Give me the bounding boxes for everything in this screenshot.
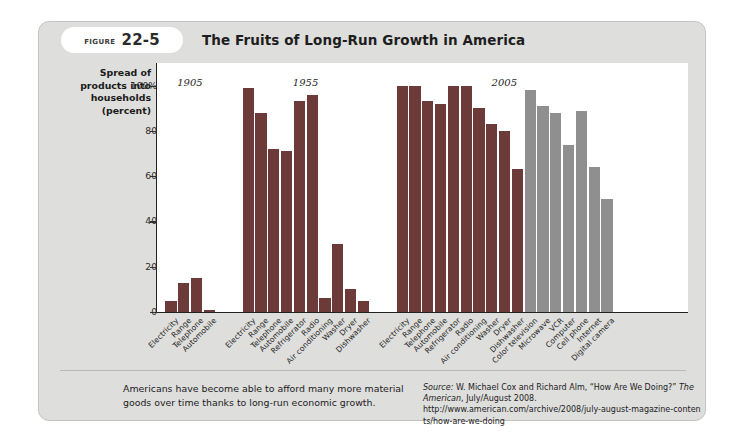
- source-url: http://www.american.com/archive/2008/jul…: [423, 405, 701, 425]
- figure-header: FIGURE 22-5 The Fruits of Long-Run Growt…: [39, 22, 705, 60]
- bar: [255, 113, 266, 312]
- bar: [435, 104, 446, 312]
- figure-badge-word: FIGURE: [84, 35, 115, 46]
- bar: [165, 301, 176, 312]
- bar: [589, 167, 600, 312]
- bar: [473, 108, 484, 312]
- bar: [307, 95, 318, 312]
- bar: [576, 111, 587, 312]
- y-axis-title: Spread of products into households (perc…: [65, 67, 151, 117]
- bar: [358, 301, 369, 312]
- bar: [550, 113, 561, 312]
- y-axis-title-line4: (percent): [65, 105, 151, 118]
- y-axis-title-line1: Spread of: [65, 67, 151, 80]
- figure-title: The Fruits of Long-Run Growth in America: [202, 32, 525, 48]
- bar: [563, 145, 574, 313]
- bar: [397, 86, 408, 312]
- source-date: , July/August 2008.: [461, 394, 537, 403]
- y-tick-label: 20: [113, 261, 157, 272]
- bar: [422, 101, 433, 312]
- bar: [345, 289, 356, 312]
- bar: [409, 86, 420, 312]
- bar: [294, 101, 305, 312]
- footer-divider: [60, 370, 686, 371]
- y-tick-label: 80: [113, 125, 157, 136]
- bar: [448, 86, 459, 312]
- x-axis-labels: ElectricityRangeTelephoneAutomobileElect…: [157, 316, 717, 376]
- figure-caption: Americans have become able to afford man…: [123, 382, 423, 409]
- chart-plot-wrapper: Spread of products into households (perc…: [39, 60, 705, 350]
- source-label: Source:: [423, 383, 453, 392]
- bar: [243, 88, 254, 312]
- y-axis-title-line3: households: [65, 92, 151, 105]
- figure-card: FIGURE 22-5 The Fruits of Long-Run Growt…: [38, 21, 706, 421]
- bar: [499, 131, 510, 312]
- figure-badge-number: 22-5: [122, 31, 160, 49]
- figure-badge: FIGURE 22-5: [61, 27, 183, 53]
- y-tick-label: 60: [113, 170, 157, 181]
- y-tick-label: 0: [113, 306, 157, 317]
- bar: [281, 151, 292, 312]
- y-tick-label: 40: [113, 215, 157, 226]
- bar: [178, 283, 189, 312]
- bar: [525, 90, 536, 312]
- bar: [512, 169, 523, 312]
- figure-source: Source: W. Michael Cox and Richard Alm, …: [423, 382, 703, 427]
- source-authors: W. Michael Cox and Richard Alm, “How Are…: [453, 383, 679, 392]
- bar: [332, 244, 343, 312]
- bar: [319, 298, 330, 312]
- bar: [601, 199, 612, 312]
- bar: [537, 106, 548, 312]
- bar: [486, 124, 497, 312]
- bar: [191, 278, 202, 312]
- bars-layer: [157, 63, 687, 312]
- bar: [268, 149, 279, 312]
- bar: [204, 310, 215, 312]
- figure-page: FIGURE 22-5 The Fruits of Long-Run Growt…: [0, 0, 745, 441]
- y-tick-label: 100%: [113, 80, 157, 91]
- bar: [461, 86, 472, 312]
